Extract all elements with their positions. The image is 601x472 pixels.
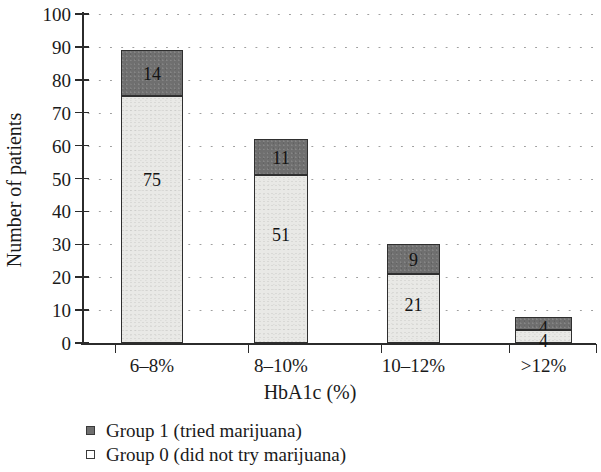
x-axis-title: HbA1c (%) [264,382,357,402]
y-axis-tick-label: 30 [52,235,80,254]
bar-segment-group0: 75 [121,96,183,343]
x-axis-tick [248,344,249,353]
legend-item: Group 1 (tried marijuana) [86,418,346,442]
stacked-bar: 1151 [254,139,308,343]
bar-segment-group0: 51 [254,175,308,343]
x-axis-tick-label: 6–8% [130,356,174,375]
y-axis-tick-label: 20 [52,268,80,287]
open-square-icon [86,450,95,459]
legend-item: Group 0 (did not try marijuana) [86,442,346,466]
y-axis-tick-label: 10 [52,301,80,320]
bar-segment-group0: 4 [515,330,572,343]
bar-value-label: 4 [516,332,571,350]
bar-value-label: 9 [388,251,439,269]
stacked-bar: 921 [387,244,440,343]
bar-value-label: 21 [388,296,439,314]
y-axis-tick-label: 60 [52,136,80,155]
chart-figure: Number of patients 1475115192144 0102030… [0,0,601,472]
gridline [83,47,595,48]
legend-label: Group 0 (did not try marijuana) [106,445,346,464]
x-axis-tick-label: 10–12% [382,356,445,375]
x-axis-tick [381,344,382,353]
bar-value-label: 14 [122,65,182,83]
x-axis-tick-label: 8–10% [254,356,308,375]
y-axis-tick-label: 100 [43,5,81,24]
bar-value-label: 51 [255,226,307,244]
stacked-bar: 44 [515,317,572,343]
bar-segment-group0: 21 [387,274,440,343]
bar-value-label: 11 [255,149,307,167]
bar-segment-group1: 4 [515,317,572,330]
y-axis-tick-label: 80 [52,70,80,89]
y-axis-tick-label: 90 [52,37,80,56]
bar-value-label: 75 [122,171,182,189]
gridline [83,14,595,15]
bar-segment-group1: 14 [121,50,183,96]
stacked-bar: 1475 [121,50,183,343]
y-axis-tick-label: 50 [52,169,80,188]
filled-square-icon [86,426,95,435]
x-axis-tick [115,344,116,353]
y-axis-title: Number of patients [4,113,24,267]
bar-segment-group1: 9 [387,244,440,274]
x-axis-tick-label: >12% [521,356,567,375]
y-axis-tick-label: 0 [62,334,81,353]
y-axis-tick-label: 70 [52,103,80,122]
x-axis-tick [509,344,510,353]
plot-area: 1475115192144 [82,14,595,343]
legend-label: Group 1 (tried marijuana) [106,421,302,440]
x-axis-tick [596,344,597,353]
bar-segment-group1: 11 [254,139,308,175]
chart-legend: Group 1 (tried marijuana)Group 0 (did no… [86,418,346,466]
y-axis-tick-label: 40 [52,202,80,221]
